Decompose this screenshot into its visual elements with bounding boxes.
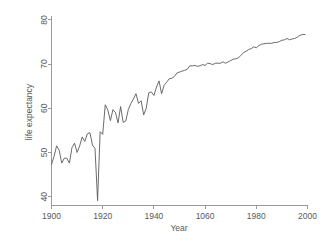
data-series-group xyxy=(52,35,305,201)
series-line xyxy=(52,35,305,201)
x-tick-label: 2000 xyxy=(298,211,317,221)
x-tick-label: 1060 xyxy=(196,211,215,221)
chart-plot-area: 190019201940106019802000 4050607080 Year… xyxy=(0,0,330,251)
life-expectancy-chart: 190019201940106019802000 4050607080 Year… xyxy=(0,0,330,251)
y-tick-label: 40 xyxy=(40,192,50,202)
x-tick-label: 1940 xyxy=(144,211,163,221)
x-tick-label: 1980 xyxy=(247,211,266,221)
y-tick-label: 70 xyxy=(40,59,50,69)
y-tick-label: 60 xyxy=(40,103,50,113)
x-tick-label: 1900 xyxy=(42,211,61,221)
y-tick-label: 80 xyxy=(40,15,50,25)
x-tick-label: 1920 xyxy=(93,211,112,221)
y-axis-title: life expectancy xyxy=(24,83,34,140)
y-tick-label: 50 xyxy=(40,147,50,157)
x-axis: 190019201940106019802000 xyxy=(42,206,317,221)
x-axis-title: Year xyxy=(170,223,187,233)
y-axis: 4050607080 xyxy=(40,15,52,206)
